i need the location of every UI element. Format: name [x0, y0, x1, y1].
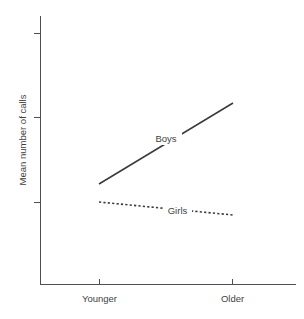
- chart-background: [0, 0, 304, 319]
- series-label-boys: Boys: [155, 133, 176, 144]
- chart-figure: Boys Girls Younger Older Mean number of …: [0, 0, 304, 319]
- x-tick-label-older: Older: [221, 293, 244, 304]
- y-axis-title: Mean number of calls: [17, 94, 28, 185]
- series-label-girls: Girls: [168, 205, 188, 216]
- x-tick-label-younger: Younger: [82, 293, 117, 304]
- line-chart: Boys Girls Younger Older Mean number of …: [0, 0, 304, 319]
